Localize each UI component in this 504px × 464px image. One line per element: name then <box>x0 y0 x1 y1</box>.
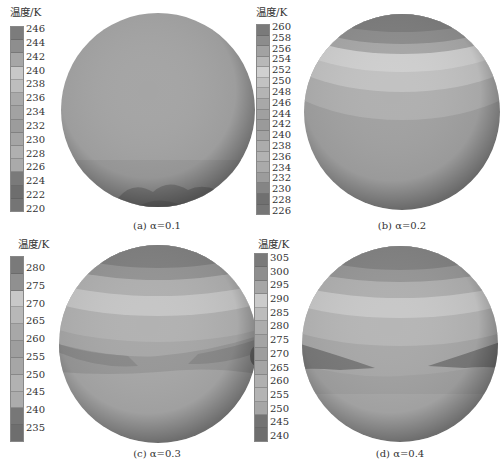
colorbar-tick-label: 226 <box>272 206 291 216</box>
colorbar-swatch <box>257 152 269 163</box>
colorbar-tick-label: 224 <box>26 176 45 186</box>
caption-d: (d) α=0.4 <box>376 448 424 459</box>
colorbar-title: 温度/K <box>258 236 289 251</box>
colorbar <box>254 253 268 442</box>
colorbar-title: 温度/K <box>10 4 41 19</box>
colorbar-swatch <box>11 146 23 159</box>
colorbar-tick-label: 290 <box>270 294 289 304</box>
colorbar-tick-label: 234 <box>272 163 291 173</box>
colorbar-tick-label: 275 <box>26 281 45 291</box>
colorbar-tick-label: 242 <box>26 52 45 62</box>
colorbar-ticks: 3053002952902852802752702652602552502452… <box>270 253 289 441</box>
colorbar-swatch <box>11 274 23 291</box>
colorbar-swatch <box>257 57 269 68</box>
colorbar-swatch <box>255 388 267 401</box>
colorbar-tick-label: 275 <box>270 335 289 345</box>
colorbar-tick-label: 240 <box>270 431 289 441</box>
colorbar-swatch <box>11 324 23 341</box>
sphere-plot <box>302 10 502 214</box>
colorbar-tick-label: 238 <box>272 141 291 151</box>
colorbar-tick-label: 245 <box>270 417 289 427</box>
caption-b: (b) α=0.2 <box>378 220 426 231</box>
colorbar-tick-label: 240 <box>272 130 291 140</box>
colorbar-tick-label: 305 <box>270 253 289 263</box>
colorbar-tick-label: 228 <box>26 149 45 159</box>
colorbar-tick-label: 236 <box>272 152 291 162</box>
colorbar-title: 温度/K <box>256 4 287 19</box>
colorbar-swatch <box>11 106 23 119</box>
colorbar-tick-label: 280 <box>270 321 289 331</box>
colorbar-tick-label: 300 <box>270 267 289 277</box>
colorbar-swatch <box>255 335 267 348</box>
colorbar-swatch <box>255 294 267 307</box>
colorbar-ticks: 2602582562542522502482462442422402382362… <box>272 22 291 216</box>
colorbar-tick-label: 285 <box>270 308 289 318</box>
colorbar-swatch <box>11 120 23 133</box>
colorbar-tick-label: 270 <box>26 299 45 309</box>
caption-a: (a) α=0.1 <box>133 220 181 231</box>
colorbar-swatch <box>255 348 267 361</box>
colorbar-swatch <box>11 341 23 358</box>
colorbar-tick-label: 270 <box>270 349 289 359</box>
colorbar-swatch <box>11 67 23 80</box>
colorbar-tick-label: 246 <box>272 98 291 108</box>
colorbar-ticks: 280275270265260255250245240235 <box>26 263 45 433</box>
colorbar-swatch <box>257 67 269 78</box>
colorbar-swatch <box>11 408 23 425</box>
colorbar-swatch <box>11 93 23 106</box>
colorbar-tick-label: 244 <box>272 109 291 119</box>
colorbar-swatch <box>255 361 267 374</box>
colorbar-tick-label: 245 <box>26 387 45 397</box>
colorbar-swatch <box>257 162 269 173</box>
colorbar-swatch <box>255 428 267 440</box>
colorbar-swatch <box>11 425 23 441</box>
colorbar-tick-label: 260 <box>26 334 45 344</box>
colorbar-swatch <box>255 402 267 415</box>
colorbar-tick-label: 226 <box>26 162 45 172</box>
colorbar-swatch <box>255 254 267 267</box>
colorbar-tick-label: 235 <box>26 423 45 433</box>
colorbar-swatch <box>257 99 269 110</box>
sphere-plot <box>58 10 258 210</box>
colorbar-tick-label: 250 <box>26 370 45 380</box>
colorbar-ticks: 2462442422402382362342322302282262242222… <box>26 24 45 214</box>
colorbar-swatch <box>257 120 269 131</box>
colorbar-swatch <box>257 194 269 205</box>
colorbar <box>10 26 24 212</box>
colorbar-swatch <box>11 172 23 185</box>
colorbar-swatch <box>257 141 269 152</box>
colorbar-tick-label: 240 <box>26 66 45 76</box>
colorbar-tick-label: 248 <box>272 87 291 97</box>
colorbar-swatch <box>257 205 269 215</box>
colorbar-tick-label: 242 <box>272 119 291 129</box>
colorbar-tick-label: 260 <box>270 376 289 386</box>
colorbar-swatch <box>11 80 23 93</box>
colorbar-swatch <box>257 36 269 47</box>
colorbar-tick-label: 240 <box>26 405 45 415</box>
colorbar-swatch <box>255 281 267 294</box>
colorbar-swatch <box>11 358 23 375</box>
colorbar-tick-label: 244 <box>26 38 45 48</box>
colorbar-tick-label: 280 <box>26 263 45 273</box>
colorbar-swatch <box>11 27 23 40</box>
colorbar-tick-label: 258 <box>272 33 291 43</box>
colorbar-tick-label: 220 <box>26 204 45 214</box>
colorbar-swatch <box>257 25 269 36</box>
colorbar-swatch <box>11 53 23 66</box>
colorbar-swatch <box>257 173 269 184</box>
sphere-plot <box>58 244 258 444</box>
colorbar-swatch <box>257 46 269 57</box>
colorbar-swatch <box>255 375 267 388</box>
colorbar-swatch <box>257 78 269 89</box>
colorbar-tick-label: 255 <box>270 390 289 400</box>
colorbar-tick-label: 232 <box>272 173 291 183</box>
colorbar-tick-label: 265 <box>26 316 45 326</box>
colorbar-swatch <box>11 133 23 146</box>
colorbar-tick-label: 255 <box>26 352 45 362</box>
colorbar-tick-label: 256 <box>272 44 291 54</box>
colorbar-swatch <box>255 267 267 280</box>
colorbar-tick-label: 260 <box>272 22 291 32</box>
colorbar-swatch <box>11 257 23 274</box>
colorbar-swatch <box>11 40 23 53</box>
colorbar-tick-label: 254 <box>272 54 291 64</box>
